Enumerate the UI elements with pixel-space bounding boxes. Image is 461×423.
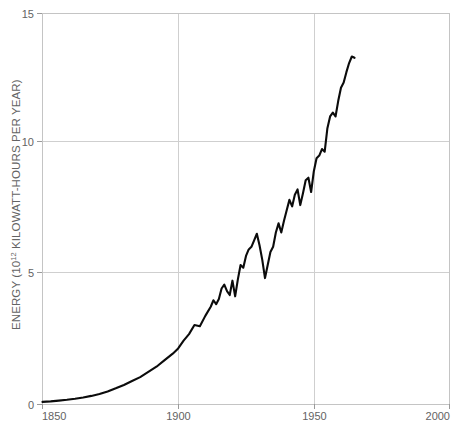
ytick-label-10: 10	[22, 136, 34, 148]
y-axis-title-tail: KILOWATT-HOURS PER YEAR)	[10, 79, 22, 252]
xtick-label-1850: 1850	[42, 410, 66, 422]
chart-container: 15 10 5 0 1850 1900 1950 2000 ENERGY (10…	[0, 0, 461, 423]
xtick-label-1950: 1950	[302, 410, 326, 422]
xtick-label-2000: 2000	[426, 410, 450, 422]
y-axis-title-head: ENERGY (10	[10, 261, 22, 330]
chart-background	[0, 0, 461, 423]
svg-text:ENERGY (1012 KILOWATT-HOURS PE: ENERGY (1012 KILOWATT-HOURS PER YEAR)	[9, 79, 22, 330]
y-axis-title-exponent: 12	[9, 252, 18, 261]
ytick-label-5: 5	[28, 267, 34, 279]
ytick-label-0: 0	[28, 399, 34, 411]
ytick-label-15: 15	[22, 8, 34, 20]
y-axis-title: ENERGY (1012 KILOWATT-HOURS PER YEAR)	[9, 79, 22, 330]
line-chart: 15 10 5 0 1850 1900 1950 2000 ENERGY (10…	[0, 0, 461, 423]
xtick-label-1900: 1900	[166, 410, 190, 422]
